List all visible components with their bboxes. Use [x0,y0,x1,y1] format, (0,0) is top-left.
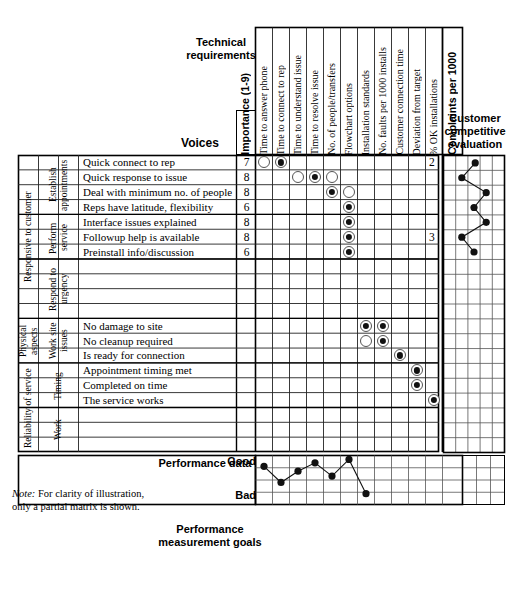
subgroup-label-establish-appointments: Establish appointments [39,155,78,215]
importance-value [237,378,256,393]
subgroup-label-work-site-issues: Work site issues [39,318,78,363]
column-header-0: Time to answer phone [255,29,272,155]
voices-title: Voices [160,136,240,150]
relationship-symbol-filled[interactable] [360,320,372,332]
importance-value [237,407,256,422]
importance-value: 8 [237,214,256,229]
importance-value [237,318,256,333]
voice-row-label[interactable]: Is ready for connection [79,348,240,363]
voice-row-label[interactable]: Reps have latitude, flexibility [79,200,240,215]
complaints-value [426,348,446,363]
voice-row-label[interactable] [79,437,240,452]
voice-row-label[interactable] [79,407,240,422]
complaints-value [426,407,446,422]
complaints-value [426,422,446,437]
importance-value [237,274,256,289]
voice-row-label[interactable]: Completed on time [79,378,240,393]
performance-scale-labels: Good Bad [190,455,256,501]
importance-value [237,422,256,437]
voice-row-label[interactable] [79,259,240,274]
column-header-8: Customer connection time [391,29,408,155]
column-header-7: No. faults per 1000 installs [374,29,391,155]
voice-row-label[interactable]: Preinstall info/discussion [79,244,240,259]
voice-row-label[interactable]: Followup help is available [79,229,240,244]
importance-value [237,348,256,363]
competitive-evaluation-point[interactable] [470,248,477,255]
voice-row-label[interactable] [79,274,240,289]
complaints-value [426,437,446,452]
column-header-4: No. of people/transfers [323,29,340,155]
competitive-evaluation-point[interactable] [472,159,479,166]
importance-value [237,333,256,348]
voice-row-label[interactable] [79,289,240,304]
complaints-value [426,333,446,348]
column-header-importance: Importance (1-9) [235,29,255,155]
importance-value [237,289,256,304]
column-header-6: Installation standards [357,29,374,155]
scale-bad-label: Bad [190,489,256,501]
importance-value: 8 [237,170,256,185]
subgroup-label-respond-to-urgency: Respond to urgency [39,260,78,318]
relationship-symbol-filled[interactable] [343,216,355,228]
voice-row-label[interactable]: Deal with minimum no. of people [79,185,240,200]
performance-data-chart [255,455,462,504]
importance-value: 8 [237,185,256,200]
complaints-value [426,363,446,378]
group-label-reliability-of-service: Reliability of service [19,363,38,452]
voice-row-label[interactable]: Interface issues explained [79,214,240,229]
complaints-value [426,244,446,259]
relationship-symbol-open[interactable] [360,335,372,347]
subgroup-label-timing: Timing [39,363,78,408]
column-header-1: Time to connect to rep [272,29,289,155]
complaints-value: 3 [426,229,446,244]
relationship-symbol-filled[interactable] [343,246,355,258]
voice-row-label[interactable]: No cleanup required [79,333,240,348]
column-header-10: % OK installations [425,29,442,155]
competitive-evaluation-point[interactable] [483,219,490,226]
column-header-9: Deviation from target [408,29,425,155]
voice-row-label[interactable]: Quick response to issue [79,170,240,185]
complaints-value [426,274,446,289]
note-prefix: Note: [12,488,35,499]
relationship-symbol-filled[interactable] [377,320,389,332]
relationship-symbol-filled[interactable] [343,201,355,213]
importance-value: 8 [237,229,256,244]
complaints-value [426,259,446,274]
subgroup-label-work: Work [39,408,78,452]
scale-good-label: Good [190,455,256,467]
group-label-physical-aspects: Physical aspects [19,318,38,363]
complaints-value [426,304,446,319]
complaints-value [426,200,446,215]
relationship-symbol-filled[interactable] [377,335,389,347]
importance-value [237,393,256,408]
performance-measurement-goals-title: Performance measurement goals [150,523,270,549]
voice-row-label[interactable]: Quick connect to rep [79,155,240,170]
voice-row-label[interactable]: No damage to site [79,318,240,333]
importance-value: 6 [237,200,256,215]
note-line2: only a partial matrix is shown. [12,501,140,512]
column-header-2: Time to understand issue [289,29,306,155]
competitive-evaluation-point[interactable] [458,234,465,241]
importance-value [237,437,256,452]
voice-row-label[interactable] [79,304,240,319]
complaints-value [426,170,446,185]
column-header-5: Flowchart options [340,29,357,155]
complaints-value [426,318,446,333]
voice-row-label[interactable]: The service works [79,393,240,408]
voice-row-label[interactable] [79,422,240,437]
competitive-evaluation-point[interactable] [483,189,490,196]
competitive-evaluation-point[interactable] [458,174,465,181]
relationship-symbol-filled[interactable] [428,394,440,406]
competitive-evaluation-point[interactable] [470,204,477,211]
complaints-value [426,185,446,200]
importance-value [237,363,256,378]
relationship-symbol-filled[interactable] [343,231,355,243]
complaints-value: 2 [426,155,446,170]
column-header-3: Time to resolve issue [306,29,323,155]
importance-value [237,304,256,319]
voice-row-label[interactable]: Appointment timing met [79,363,240,378]
competitive-evaluation-polyline [462,163,486,252]
complaints-value [426,214,446,229]
group-label-responsive-to-customer: Responsive to customer [19,155,38,318]
note-line1: For clarity of illustration, [35,488,144,499]
